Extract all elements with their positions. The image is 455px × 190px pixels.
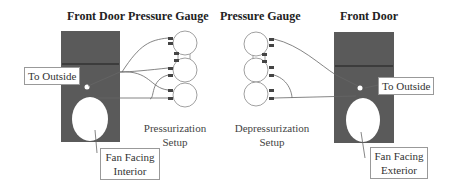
- right-fan-label-line2: Exterior: [374, 163, 424, 177]
- right-fan-label: Fan Facing Exterior: [370, 147, 428, 179]
- right-door-title: Front Door: [340, 9, 398, 24]
- left-fan: [72, 97, 108, 141]
- left-caption-line1: Pressurization: [140, 121, 210, 135]
- left-fan-label-line2: Interior: [104, 164, 156, 178]
- left-gauges: [173, 31, 197, 107]
- left-door-title: Front Door: [67, 9, 125, 24]
- left-fan-label: Fan Facing Interior: [100, 148, 160, 180]
- left-front-door: [61, 31, 120, 142]
- right-to-outside-label: To Outside: [378, 77, 434, 95]
- right-gauges: [244, 32, 268, 106]
- left-caption: Pressurization Setup: [140, 121, 210, 149]
- right-caption-line2: Setup: [232, 135, 312, 149]
- right-gauge-title: Pressure Gauge: [220, 9, 301, 24]
- left-caption-line2: Setup: [140, 135, 210, 149]
- right-caption: Depressurization Setup: [232, 121, 312, 149]
- left-fan-label-line1: Fan Facing: [104, 150, 156, 164]
- right-caption-line1: Depressurization: [232, 121, 312, 135]
- right-outside-port: [358, 86, 363, 91]
- right-fan-label-line1: Fan Facing: [374, 149, 424, 163]
- right-fan: [346, 98, 380, 142]
- left-to-outside-label: To Outside: [24, 67, 80, 85]
- left-gauge-title: Pressure Gauge: [128, 9, 209, 24]
